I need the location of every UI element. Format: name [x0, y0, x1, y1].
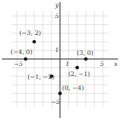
y-tick-label: 1	[55, 46, 59, 53]
x-tick-label: 1	[66, 60, 70, 67]
y-axis-label: y	[54, 1, 59, 9]
point-label: (−4, 0)	[11, 48, 33, 55]
x-tick-label: −5	[14, 60, 23, 67]
y-tick-label: −5	[51, 98, 60, 105]
data-point	[32, 40, 36, 44]
x-axis-label: x	[114, 60, 118, 68]
point-label: (−1, −2)	[27, 73, 54, 80]
data-point	[24, 57, 28, 61]
y-tick-label: 5	[55, 12, 59, 19]
point-label: (0, −4)	[62, 84, 84, 91]
data-points: (−3, 2)(−4, 0)(3, 0)(2, −1)(−1, −2)(0, −…	[11, 29, 94, 95]
point-label: (−3, 2)	[19, 29, 41, 36]
point-label: (3, 0)	[77, 49, 94, 56]
data-point	[84, 57, 88, 61]
point-label: (2, −1)	[68, 70, 90, 77]
data-point	[58, 92, 62, 96]
x-tick-label: 5	[100, 60, 104, 67]
coordinate-plane: x y −51551−5 (−3, 2)(−4, 0)(3, 0)(2, −1)…	[0, 0, 120, 120]
